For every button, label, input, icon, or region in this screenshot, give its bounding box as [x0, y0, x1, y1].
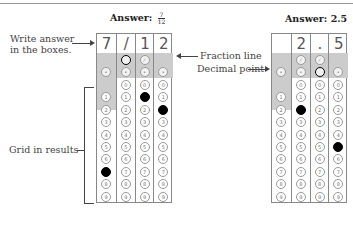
grid-column: 7•12345689	[97, 34, 116, 202]
digit-bubble-8[interactable]: 8	[121, 179, 131, 189]
digit-bubble-7[interactable]: 7	[315, 167, 325, 177]
fraction-bubble[interactable]: ⁄	[140, 55, 150, 65]
digit-bubble-6[interactable]: 6	[158, 154, 168, 164]
digit-bubble-0[interactable]: 0	[296, 80, 306, 90]
digit-bubble-7[interactable]: 7	[333, 167, 343, 177]
digit-bubble-8[interactable]: 8	[315, 179, 325, 189]
decimal-bubble[interactable]: •	[101, 67, 111, 77]
digit-bubble-4[interactable]: 4	[101, 130, 111, 140]
answer-box[interactable]: .	[311, 34, 330, 54]
digit-bubble-8[interactable]: 8	[296, 179, 306, 189]
digit-bubble-2[interactable]: 2	[101, 105, 111, 115]
answer-box[interactable]	[272, 34, 291, 54]
digit-bubble-8[interactable]: 8	[158, 179, 168, 189]
grid-in-bracket	[84, 87, 94, 204]
answer-box[interactable]: /	[117, 34, 136, 54]
digit-bubble-5[interactable]: 5	[101, 142, 111, 152]
digit-bubble-7[interactable]	[101, 167, 111, 177]
digit-bubble-2[interactable]: 2	[140, 105, 150, 115]
digit-bubble-1[interactable]: 1	[315, 92, 325, 102]
digit-bubble-2[interactable]	[158, 105, 168, 115]
fraction-bubble[interactable]: ⁄	[315, 55, 325, 65]
digit-bubble-8[interactable]: 8	[333, 179, 343, 189]
digit-bubble-1[interactable]	[140, 92, 150, 102]
digit-bubble-9[interactable]: 9	[140, 192, 150, 202]
digit-bubble-7[interactable]: 7	[140, 167, 150, 177]
answer-box[interactable]: 7	[97, 34, 116, 54]
digit-bubble-3[interactable]: 3	[333, 117, 343, 127]
digit-bubble-4[interactable]: 4	[276, 130, 286, 140]
digit-bubble-5[interactable]: 5	[121, 142, 131, 152]
digit-bubble-2[interactable]: 2	[333, 105, 343, 115]
digit-bubble-8[interactable]: 8	[140, 179, 150, 189]
fraction-bubble[interactable]	[121, 55, 131, 65]
digit-bubble-6[interactable]: 6	[140, 154, 150, 164]
digit-bubble-9[interactable]: 9	[276, 192, 286, 202]
digit-bubble-7[interactable]: 7	[296, 167, 306, 177]
digit-bubble-9[interactable]: 9	[333, 192, 343, 202]
digit-bubble-6[interactable]: 6	[276, 154, 286, 164]
digit-bubble-0[interactable]: 0	[121, 80, 131, 90]
digit-bubble-4[interactable]: 4	[296, 130, 306, 140]
digit-bubble-3[interactable]: 3	[158, 117, 168, 127]
digit-bubble-6[interactable]: 6	[333, 154, 343, 164]
digit-bubble-4[interactable]: 4	[158, 130, 168, 140]
digit-bubble-0[interactable]: 0	[158, 80, 168, 90]
digit-bubble-8[interactable]: 8	[101, 179, 111, 189]
digit-bubble-9[interactable]: 9	[315, 192, 325, 202]
decimal-bubble[interactable]: •	[276, 67, 286, 77]
answer-box[interactable]: 2	[292, 34, 311, 54]
digit-bubble-2[interactable]: 2	[121, 105, 131, 115]
digit-bubble-3[interactable]: 3	[121, 117, 131, 127]
digit-bubble-4[interactable]: 4	[121, 130, 131, 140]
digit-bubble-9[interactable]: 9	[101, 192, 111, 202]
digit-bubble-0[interactable]: 0	[315, 80, 325, 90]
decimal-bubble[interactable]: •	[296, 67, 306, 77]
digit-bubble-4[interactable]: 4	[140, 130, 150, 140]
fraction-line-arrow	[180, 56, 198, 57]
answer-box[interactable]: 5	[329, 34, 348, 54]
digit-bubble-1[interactable]: 1	[158, 92, 168, 102]
digit-bubble-5[interactable]: 5	[276, 142, 286, 152]
digit-bubble-8[interactable]: 8	[276, 179, 286, 189]
digit-bubble-1[interactable]: 1	[333, 92, 343, 102]
digit-bubble-5[interactable]: 5	[315, 142, 325, 152]
digit-bubble-6[interactable]: 6	[315, 154, 325, 164]
digit-bubble-5[interactable]: 5	[296, 142, 306, 152]
grid-column: •123456789	[272, 34, 291, 202]
digit-bubble-5[interactable]	[333, 142, 343, 152]
digit-bubble-7[interactable]: 7	[121, 167, 131, 177]
digit-bubble-9[interactable]: 9	[121, 192, 131, 202]
digit-bubble-1[interactable]: 1	[296, 92, 306, 102]
digit-bubble-7[interactable]: 7	[158, 167, 168, 177]
decimal-bubble[interactable]: •	[121, 67, 131, 77]
decimal-bubble[interactable]	[315, 67, 325, 77]
answer-box[interactable]: 1	[136, 34, 155, 54]
digit-bubble-3[interactable]: 3	[315, 117, 325, 127]
digit-bubble-3[interactable]: 3	[101, 117, 111, 127]
digit-bubble-6[interactable]: 6	[101, 154, 111, 164]
digit-bubble-6[interactable]: 6	[296, 154, 306, 164]
digit-bubble-3[interactable]: 3	[140, 117, 150, 127]
digit-bubble-0[interactable]: 0	[333, 80, 343, 90]
digit-bubble-2[interactable]: 2	[315, 105, 325, 115]
digit-bubble-5[interactable]: 5	[158, 142, 168, 152]
digit-bubble-3[interactable]: 3	[276, 117, 286, 127]
digit-bubble-3[interactable]: 3	[296, 117, 306, 127]
digit-bubble-2[interactable]	[296, 105, 306, 115]
digit-bubble-9[interactable]: 9	[158, 192, 168, 202]
fraction-bubble[interactable]: ⁄	[296, 55, 306, 65]
digit-bubble-7[interactable]: 7	[276, 167, 286, 177]
digit-bubble-6[interactable]: 6	[121, 154, 131, 164]
digit-bubble-0[interactable]: 0	[140, 80, 150, 90]
arrowhead-right-icon	[265, 66, 270, 72]
answer-box[interactable]: 2	[154, 34, 173, 54]
digit-bubble-9[interactable]: 9	[296, 192, 306, 202]
digit-bubble-1[interactable]: 1	[121, 92, 131, 102]
grid-column: /•0123456789	[116, 34, 136, 202]
digit-bubble-5[interactable]: 5	[140, 142, 150, 152]
digit-bubble-2[interactable]: 2	[276, 105, 286, 115]
digit-bubble-4[interactable]: 4	[315, 130, 325, 140]
decimal-bubble[interactable]: •	[140, 67, 150, 77]
digit-bubble-4[interactable]: 4	[333, 130, 343, 140]
